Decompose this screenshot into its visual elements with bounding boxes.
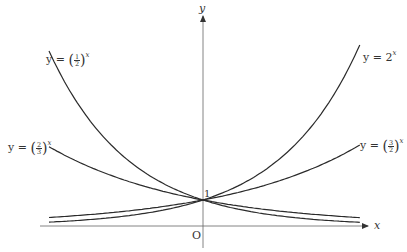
- origin-label: O: [192, 230, 201, 241]
- y-intercept-label: 1: [204, 189, 210, 199]
- threehalves-power-curve: [49, 145, 360, 217]
- exponential-functions-chart: [0, 0, 407, 252]
- x-axis-label: x: [374, 220, 380, 231]
- label-threehalves-power-x: y = (32)x: [360, 138, 403, 153]
- twothirds-power-curve: [49, 147, 360, 218]
- y-axis-label: y: [199, 3, 205, 14]
- label-twothirds-power-x: y = (23)x: [8, 140, 51, 155]
- label-two-power-x: y = 2x: [363, 50, 396, 63]
- label-half-power-x: y = (12)x: [46, 52, 89, 67]
